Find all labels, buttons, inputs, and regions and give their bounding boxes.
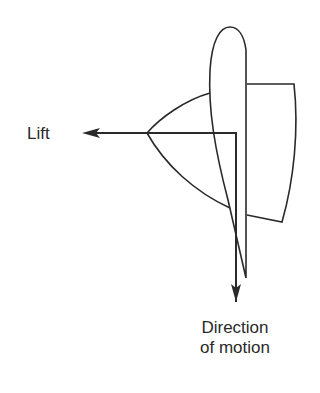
right-lobe-shape — [247, 84, 296, 222]
direction-label-line2: of motion — [185, 338, 285, 358]
direction-label-line1: Direction — [185, 318, 285, 338]
direction-of-motion-label: Direction of motion — [185, 318, 285, 357]
lift-label: Lift — [27, 124, 50, 144]
airfoil-shape — [210, 27, 246, 278]
left-lobe-shape — [147, 93, 230, 208]
